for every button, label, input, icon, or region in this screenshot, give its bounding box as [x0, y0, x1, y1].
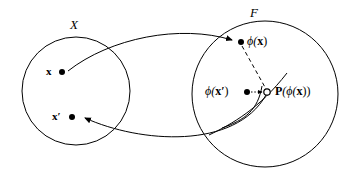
point-x-marker — [59, 69, 65, 75]
phi-prime-symbol: ϕ( — [205, 84, 215, 98]
phi-x-prime-label: ϕ(x′) — [205, 85, 229, 97]
point-phi-x-prime-marker — [244, 89, 250, 95]
point-x-label: x — [46, 66, 52, 77]
point-phi-x-marker — [238, 39, 244, 45]
input-space-label: X — [70, 18, 78, 31]
feature-space-label: F — [250, 6, 258, 19]
projection-paren-close: )) — [303, 84, 311, 98]
point-x-prime-label: x′ — [52, 111, 61, 122]
figure-canvas: X F x x′ ϕ(x) ϕ(x′) P(ϕ(x)) — [0, 0, 342, 179]
map-forward-arrow — [68, 33, 232, 71]
point-x-prime-marker — [69, 114, 75, 120]
projection-phi: (ϕ( — [282, 84, 296, 98]
projection-dashed-line — [242, 46, 266, 89]
point-projection-marker — [264, 89, 270, 95]
phi-x-prime-paren-close: ) — [225, 84, 229, 98]
phi-symbol: ϕ( — [247, 34, 257, 48]
phi-x-prime-argument: x′ — [215, 84, 224, 98]
manifold-curve — [209, 73, 287, 135]
phi-x-paren-close: ) — [263, 34, 267, 48]
projection-label: P(ϕ(x)) — [275, 85, 311, 97]
phi-x-label: ϕ(x) — [247, 35, 267, 47]
